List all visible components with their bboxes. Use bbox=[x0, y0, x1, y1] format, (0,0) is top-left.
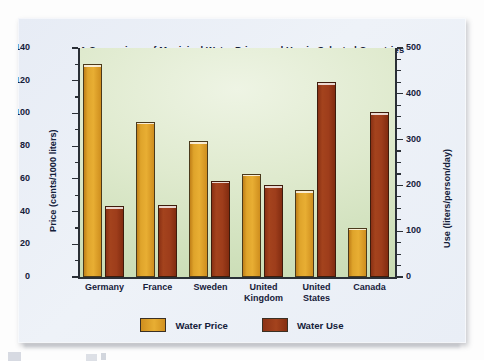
right-axis-tick-label: 100 bbox=[406, 225, 421, 235]
legend-swatch-price-icon bbox=[140, 318, 166, 332]
scan-artifact bbox=[86, 354, 97, 361]
right-axis-minor-tick bbox=[397, 242, 401, 243]
bar-water-price bbox=[295, 190, 315, 277]
right-axis-tick bbox=[397, 231, 403, 232]
x-axis-line bbox=[78, 277, 397, 279]
bar-highlight bbox=[84, 65, 102, 67]
left-axis-minor-tick bbox=[75, 260, 79, 261]
bar-water-use bbox=[317, 82, 337, 277]
bar-water-price bbox=[189, 141, 209, 277]
bar-highlight bbox=[190, 142, 208, 144]
left-axis-tick bbox=[72, 178, 78, 179]
right-axis-minor-tick bbox=[397, 116, 401, 117]
left-axis-tick bbox=[72, 80, 78, 81]
bar-highlight bbox=[296, 191, 314, 193]
scan-artifact bbox=[8, 352, 21, 361]
right-axis-tick bbox=[397, 47, 403, 48]
bar-water-use bbox=[264, 185, 284, 277]
chart-card: A Comparison of Municipal Water Prices a… bbox=[18, 18, 466, 343]
left-axis-line bbox=[78, 48, 80, 278]
bar-water-price bbox=[242, 174, 262, 277]
right-axis-minor-tick bbox=[397, 59, 401, 60]
left-axis-tick-label: 80 bbox=[20, 140, 30, 150]
left-axis-minor-tick bbox=[75, 129, 79, 130]
left-axis-tick bbox=[72, 146, 78, 147]
scan-shadow bbox=[24, 344, 460, 350]
bar-water-use bbox=[105, 206, 125, 277]
right-axis-tick bbox=[397, 276, 403, 277]
right-axis-minor-tick bbox=[397, 70, 401, 71]
right-axis-label: Use (liters/person/day) bbox=[442, 149, 452, 248]
legend-swatch-use-icon bbox=[262, 318, 288, 332]
right-axis-minor-tick bbox=[397, 162, 401, 163]
left-axis-tick-label: 100 bbox=[18, 107, 30, 117]
bar-water-use bbox=[370, 112, 390, 277]
bar-water-use bbox=[158, 205, 178, 277]
right-axis-minor-tick bbox=[397, 128, 401, 129]
bar-highlight bbox=[243, 175, 261, 177]
right-axis-minor-tick bbox=[397, 254, 401, 255]
bar-water-price bbox=[83, 64, 103, 277]
left-axis-tick bbox=[72, 244, 78, 245]
bar-highlight bbox=[265, 186, 283, 188]
bar-highlight bbox=[212, 182, 230, 184]
bar-water-price bbox=[348, 228, 368, 277]
right-axis-tick-label: 300 bbox=[406, 134, 421, 144]
left-axis-tick-label: 120 bbox=[18, 75, 30, 85]
left-axis-tick bbox=[72, 276, 78, 277]
right-axis-tick-label: 500 bbox=[406, 42, 421, 52]
bar-highlight bbox=[106, 207, 124, 209]
left-axis-minor-tick bbox=[75, 162, 79, 163]
left-axis-tick bbox=[72, 211, 78, 212]
bar-highlight bbox=[349, 229, 367, 231]
right-axis-minor-tick bbox=[397, 173, 401, 174]
right-axis-minor-tick bbox=[397, 82, 401, 83]
right-axis-minor-tick bbox=[397, 265, 401, 266]
left-axis-label: Price (cents/1000 liters) bbox=[48, 129, 58, 232]
left-axis-minor-tick bbox=[75, 96, 79, 97]
left-axis-tick-label: 20 bbox=[20, 238, 30, 248]
left-axis-tick bbox=[72, 113, 78, 114]
left-axis-tick-label: 40 bbox=[20, 206, 30, 216]
scan-artifact bbox=[101, 353, 106, 360]
left-axis-minor-tick bbox=[75, 195, 79, 196]
bar-highlight bbox=[318, 83, 336, 85]
right-axis-tick bbox=[397, 93, 403, 94]
right-axis-minor-tick bbox=[397, 208, 401, 209]
left-axis-tick-label: 0 bbox=[25, 271, 30, 281]
legend-label-water-use: Water Use bbox=[297, 320, 344, 331]
left-axis-minor-tick bbox=[75, 64, 79, 65]
bar-highlight bbox=[159, 206, 177, 208]
bar-highlight bbox=[371, 113, 389, 115]
bar-highlight bbox=[137, 123, 155, 125]
left-axis-tick bbox=[72, 47, 78, 48]
right-axis-tick-label: 400 bbox=[406, 88, 421, 98]
right-axis-tick bbox=[397, 139, 403, 140]
left-axis-tick-label: 60 bbox=[20, 173, 30, 183]
left-axis-minor-tick bbox=[75, 227, 79, 228]
left-axis-tick-label: 140 bbox=[18, 42, 30, 52]
right-axis-minor-tick bbox=[397, 196, 401, 197]
legend-item-water-use[interactable]: Water Use bbox=[262, 318, 344, 332]
chart-legend: Water Price Water Use bbox=[18, 318, 466, 332]
right-axis-minor-tick bbox=[397, 105, 401, 106]
right-axis-tick bbox=[397, 185, 403, 186]
legend-label-water-price: Water Price bbox=[175, 320, 227, 331]
right-axis-minor-tick bbox=[397, 150, 401, 151]
right-axis-minor-tick bbox=[397, 219, 401, 220]
bar-water-use bbox=[211, 181, 231, 277]
bar-water-price bbox=[136, 122, 156, 277]
right-axis-tick-label: 0 bbox=[406, 271, 411, 281]
x-axis-label: Canada bbox=[337, 282, 402, 293]
legend-item-water-price[interactable]: Water Price bbox=[140, 318, 227, 332]
right-axis-tick-label: 200 bbox=[406, 179, 421, 189]
